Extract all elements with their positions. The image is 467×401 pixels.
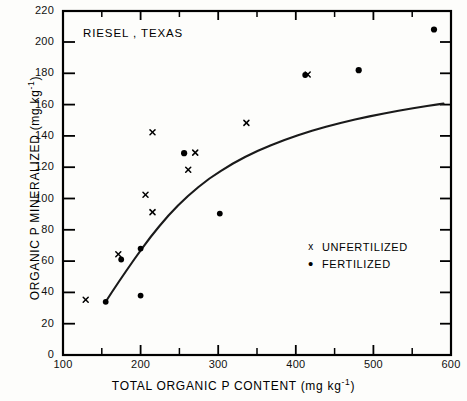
data-point-cross (116, 252, 121, 257)
data-point-cross (150, 210, 155, 215)
data-point-dot (356, 67, 362, 73)
x-tick-label-200: 200 (123, 358, 159, 370)
data-point-cross (186, 167, 191, 172)
legend-label-unfertilized: UNFERTILIZED (322, 241, 408, 253)
y-axis-title: ORGANIC P MINERALIZED (mg kg-1) (26, 28, 42, 348)
x-axis-title-tail: ) (350, 379, 355, 393)
y-axis-title-tail: ) (28, 76, 42, 81)
y-major-ticks (63, 11, 75, 355)
legend-entry-unfertilized: x UNFERTILIZED (300, 238, 408, 255)
x-bottom-ticks (63, 345, 451, 355)
data-point-cross (150, 130, 155, 135)
dot-marker-icon: • (300, 256, 322, 271)
data-point-dot (181, 150, 187, 156)
x-tick-label-500: 500 (355, 358, 391, 370)
legend-entry-fertilized: • FERTILIZED (300, 255, 408, 272)
x-tick-label-100: 100 (45, 358, 81, 370)
panel-title: RIESEL , TEXAS (83, 27, 183, 39)
data-point-dot (302, 72, 308, 78)
series-unfertilized-points (83, 72, 310, 302)
plot-canvas (0, 0, 467, 401)
y-tick-label-220: 220 (8, 4, 54, 16)
legend-label-fertilized: FERTILIZED (322, 258, 391, 270)
y-axis-title-exponent: -1 (26, 81, 36, 90)
x-top-ticks (102, 11, 412, 20)
data-point-cross (83, 297, 88, 302)
legend: x UNFERTILIZED • FERTILIZED (300, 238, 408, 272)
x-tick-label-300: 300 (200, 358, 236, 370)
x-axis-title-main: TOTAL ORGANIC P CONTENT (mg kg (112, 379, 342, 393)
y-right-ticks (440, 42, 451, 324)
data-point-dot (138, 246, 144, 252)
data-point-dot (138, 293, 144, 299)
chart-figure: RIESEL , TEXAS 0 20 40 60 80 100 120 140… (0, 0, 467, 401)
fitted-trend-curve (106, 104, 444, 302)
data-point-cross (193, 150, 198, 155)
plot-frame (63, 11, 451, 355)
data-point-dot (118, 257, 124, 263)
data-point-cross (143, 192, 148, 197)
data-point-dot (103, 299, 109, 305)
y-axis-title-main: ORGANIC P MINERALIZED (mg kg (28, 89, 42, 300)
data-point-dot (431, 26, 437, 32)
x-axis-title: TOTAL ORGANIC P CONTENT (mg kg-1) (0, 377, 467, 393)
x-tick-label-600: 600 (433, 358, 467, 370)
data-point-dot (217, 211, 223, 217)
cross-marker-icon: x (300, 242, 322, 252)
x-tick-label-400: 400 (278, 358, 314, 370)
data-point-cross (244, 120, 249, 125)
